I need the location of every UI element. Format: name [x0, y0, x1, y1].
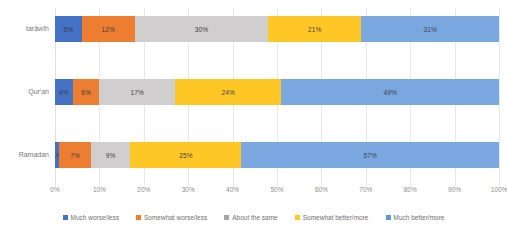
x-axis-tick: 50%: [270, 186, 283, 193]
bar-segment-label: 9%: [106, 152, 116, 159]
bar-segment[interactable]: 57%: [241, 142, 499, 168]
bar-segment-label: 6%: [81, 89, 91, 96]
bar-segment[interactable]: 12%: [82, 16, 135, 42]
bar-segment[interactable]: 9%: [91, 142, 131, 168]
bar-segment-label: 31%: [423, 26, 436, 33]
bar-segment[interactable]: 31%: [361, 16, 499, 42]
bar-row: 4%6%17%24%49%: [55, 79, 499, 105]
category-label-0: tarāwīh: [26, 16, 49, 42]
x-axis-tick: 70%: [359, 186, 372, 193]
plot-area: tarāwīh Qur'an Ramadan 6%12%30%21%31%4%6…: [0, 8, 507, 186]
bar-segment-label: 57%: [364, 152, 377, 159]
bar-segment[interactable]: 25%: [130, 142, 241, 168]
stacked-bar-chart: tarāwīh Qur'an Ramadan 6%12%30%21%31%4%6…: [0, 0, 507, 232]
category-axis: tarāwīh Qur'an Ramadan: [0, 8, 55, 186]
bar-segment-label: 17%: [130, 89, 143, 96]
x-axis-tick: 90%: [448, 186, 461, 193]
legend-item[interactable]: Somewhat worse/less: [136, 214, 207, 221]
bar-segment-label: 6%: [64, 26, 74, 33]
legend-swatch-icon: [295, 215, 300, 220]
x-axis-tick: 100%: [491, 186, 507, 193]
gridline-100: [499, 8, 500, 186]
bar-segment[interactable]: 7%: [59, 142, 90, 168]
bar-segment[interactable]: 6%: [55, 16, 82, 42]
x-axis: 0%10%20%30%40%50%60%70%80%90%100%: [55, 186, 499, 202]
x-axis-tick: 20%: [137, 186, 150, 193]
bar-row: 6%12%30%21%31%: [55, 16, 499, 42]
x-axis-tick: 30%: [182, 186, 195, 193]
bar-row: 1%7%9%25%57%: [55, 142, 499, 168]
chart-legend: Much worse/lessSomewhat worse/lessAbout …: [0, 208, 507, 226]
category-label-1: Qur'an: [28, 79, 49, 105]
category-label-2: Ramadan: [19, 142, 49, 168]
legend-swatch-icon: [63, 215, 68, 220]
bar-segment-label: 24%: [221, 89, 234, 96]
bar-segment[interactable]: 30%: [135, 16, 268, 42]
bar-rows: 6%12%30%21%31%4%6%17%24%49%1%7%9%25%57%: [55, 8, 499, 186]
bar-segment[interactable]: 49%: [281, 79, 499, 105]
x-axis-tick: 10%: [93, 186, 106, 193]
legend-swatch-icon: [386, 215, 391, 220]
bar-segment[interactable]: 4%: [55, 79, 73, 105]
x-axis-tick: 40%: [226, 186, 239, 193]
legend-item-label: Somewhat worse/less: [144, 214, 207, 221]
legend-item[interactable]: About the same: [224, 214, 278, 221]
legend-item-label: Somewhat better/more: [303, 214, 369, 221]
bar-segment[interactable]: 6%: [73, 79, 100, 105]
bar-segment-label: 21%: [308, 26, 321, 33]
bar-segment[interactable]: 24%: [175, 79, 282, 105]
legend-item[interactable]: Much better/more: [386, 214, 445, 221]
bars-container: 6%12%30%21%31%4%6%17%24%49%1%7%9%25%57%: [55, 8, 499, 186]
legend-item-label: Much worse/less: [71, 214, 119, 221]
x-axis-tick: 0%: [50, 186, 59, 193]
x-axis-tick: 60%: [315, 186, 328, 193]
bar-segment[interactable]: 17%: [99, 79, 174, 105]
legend-item-label: About the same: [232, 214, 278, 221]
bar-segment-label: 49%: [384, 89, 397, 96]
bar-segment-label: 4%: [59, 89, 69, 96]
legend-item[interactable]: Somewhat better/more: [295, 214, 369, 221]
legend-item-label: Much better/more: [394, 214, 445, 221]
legend-swatch-icon: [224, 215, 229, 220]
bar-segment-label: 25%: [179, 152, 192, 159]
bar-segment-label: 12%: [102, 26, 115, 33]
bar-segment[interactable]: 21%: [268, 16, 361, 42]
legend-swatch-icon: [136, 215, 141, 220]
legend-item[interactable]: Much worse/less: [63, 214, 119, 221]
bar-segment-label: 30%: [195, 26, 208, 33]
bar-segment-label: 7%: [70, 152, 80, 159]
x-axis-tick: 80%: [404, 186, 417, 193]
